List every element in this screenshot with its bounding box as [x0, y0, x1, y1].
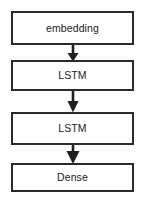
layer-node-embedding[interactable]: embedding: [11, 11, 134, 45]
layer-label-lstm-2: LSTM: [58, 123, 86, 134]
layer-label-lstm-1: LSTM: [58, 70, 86, 81]
diagram-canvas: embedding LSTM LSTM Dense: [0, 0, 145, 201]
layer-node-lstm-2[interactable]: LSTM: [11, 112, 134, 145]
arrow-lstm1-to-lstm2: [68, 91, 79, 113]
arrow-lstm2-to-dense: [67, 145, 80, 164]
layer-label-dense: Dense: [57, 172, 88, 183]
layer-node-lstm-1[interactable]: LSTM: [11, 60, 134, 91]
layer-label-embedding: embedding: [46, 23, 99, 34]
layer-node-dense[interactable]: Dense: [11, 163, 134, 192]
